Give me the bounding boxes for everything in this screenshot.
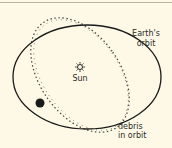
earth-orbit-label-line2: orbit — [128, 40, 164, 48]
sun-icon — [75, 62, 85, 72]
debris-label-line1: debris — [118, 123, 146, 131]
earth — [36, 99, 45, 108]
debris-label-line2: in orbit — [118, 132, 158, 140]
earth-orbit-label-line1: Earth's — [128, 30, 164, 38]
sun-label: Sun — [68, 75, 92, 83]
